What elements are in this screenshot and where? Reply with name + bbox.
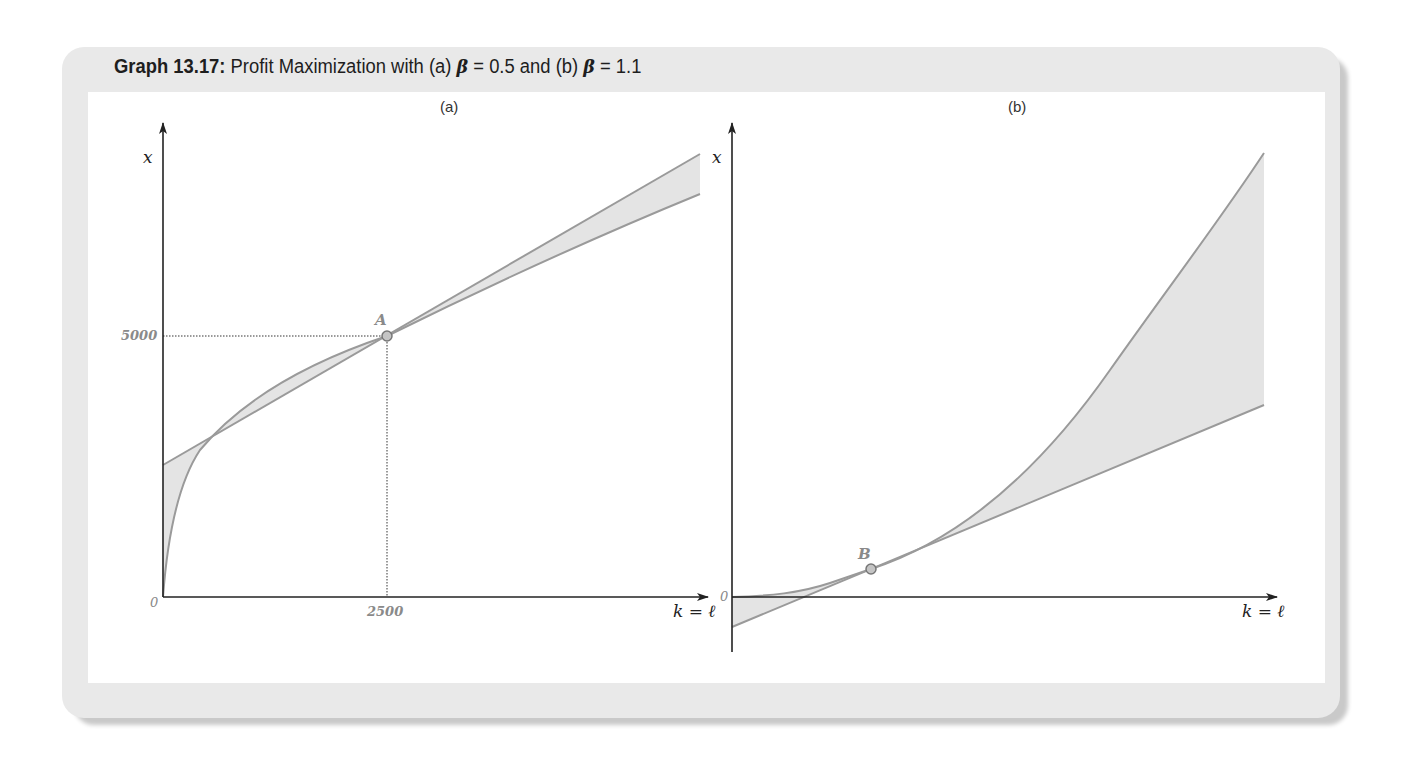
point-a-label: A [375, 311, 387, 329]
panel-b-origin-label: 0 [720, 589, 728, 604]
panel-a-x-axis-label: k = ℓ [673, 601, 715, 622]
panel-a-shade-left [163, 336, 387, 597]
panel-b-x-axis-label: k = ℓ [1242, 601, 1284, 622]
point-b-label: B [858, 545, 871, 563]
panel-b-y-axis-label: x [712, 147, 722, 167]
panel-b-label: (b) [1008, 98, 1026, 115]
panel-a-y-tick-5000: 5000 [121, 328, 157, 343]
panel-a-label: (a) [440, 98, 458, 115]
panel-a-tangent-line [163, 154, 700, 465]
panel-b-tangent-line [732, 405, 1264, 627]
panel-a-origin-label: 0 [150, 595, 158, 610]
panel-b-shade-right [871, 153, 1264, 569]
point-b-marker [866, 564, 876, 574]
chart-canvas [0, 0, 1414, 765]
panel-a-y-axis-label: x [143, 147, 153, 167]
point-a-marker [382, 331, 392, 341]
panel-b-plot [732, 123, 1277, 652]
panel-a-plot [163, 123, 708, 597]
panel-a-x-tick-2500: 2500 [367, 604, 403, 619]
panel-a-production-curve [163, 194, 700, 597]
